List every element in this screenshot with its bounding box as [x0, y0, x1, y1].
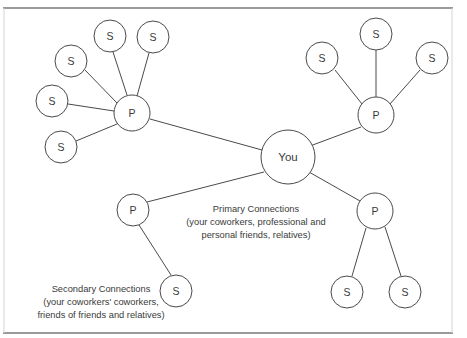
node-s-r3[interactable]: S: [416, 42, 448, 74]
node-s-r2-label: S: [372, 28, 379, 40]
network-diagram-canvas: You P P P P S S S: [0, 0, 467, 338]
node-s-l3-label: S: [67, 55, 74, 67]
node-s-l2-label: S: [149, 31, 156, 43]
edge-p-top-right-to-s-r1: [335, 70, 362, 104]
node-s-l2[interactable]: S: [137, 21, 169, 53]
node-p-top-right-label: P: [372, 109, 379, 121]
node-s-l1-label: S: [106, 30, 113, 42]
node-s-l5[interactable]: S: [45, 131, 77, 163]
node-s-b2[interactable]: S: [389, 276, 421, 308]
node-p-left-label: P: [128, 107, 135, 119]
primary-caption-line-2: (your coworkers, professional and: [172, 216, 340, 229]
edge-p-top-right-to-s-r3: [390, 70, 420, 104]
secondary-caption-line-3: friends of friends and relatives): [12, 309, 190, 322]
node-s-r2[interactable]: S: [360, 18, 392, 50]
secondary-edges-top-right: [335, 50, 420, 104]
secondary-connections-caption: Secondary Connections (your coworkers' c…: [12, 283, 190, 323]
node-s-l1[interactable]: S: [94, 20, 126, 52]
primary-caption-line-3: personal friends, relatives): [172, 229, 340, 242]
edge-you-to-p-top-right: [310, 127, 361, 146]
node-p-top-right[interactable]: P: [358, 97, 394, 133]
node-p-bottom-right[interactable]: P: [357, 193, 393, 229]
node-p-left[interactable]: P: [114, 95, 150, 131]
node-p-bottom-right-label: P: [371, 205, 378, 217]
node-s-l5-label: S: [57, 141, 64, 153]
secondary-caption-line-2: (your coworkers' coworkers,: [12, 296, 190, 309]
node-s-l4-label: S: [48, 95, 55, 107]
node-s-r1[interactable]: S: [306, 42, 338, 74]
edge-p-left-to-s-l2: [137, 53, 149, 96]
secondary-edges-bottom-left: [139, 225, 171, 275]
edge-you-to-p-bottom-left: [147, 172, 264, 202]
node-s-b2-label: S: [401, 286, 408, 298]
node-s-r1-label: S: [318, 52, 325, 64]
node-s-r3-label: S: [428, 52, 435, 64]
node-s-b1-label: S: [343, 286, 350, 298]
node-p-bottom-left[interactable]: P: [117, 194, 149, 226]
node-you[interactable]: You: [261, 130, 315, 184]
secondary-caption-line-1: Secondary Connections: [12, 283, 190, 296]
edge-p-bottom-right-to-s-b1: [352, 228, 366, 276]
edge-p-bottom-right-to-s-b2: [385, 227, 401, 276]
edge-you-to-p-bottom-right: [309, 172, 360, 201]
edge-p-left-to-s-l3: [85, 70, 117, 103]
primary-edges: [147, 119, 361, 202]
edge-p-left-to-s-l5: [76, 124, 117, 141]
edge-p-left-to-s-l4: [68, 104, 114, 111]
node-s-b1[interactable]: S: [331, 276, 363, 308]
primary-caption-line-1: Primary Connections: [172, 203, 340, 216]
node-you-label: You: [278, 151, 297, 163]
primary-connections-caption: Primary Connections (your coworkers, pro…: [172, 203, 340, 243]
node-s-l3[interactable]: S: [55, 45, 87, 77]
edge-p-bottom-left-to-s-bl1: [139, 225, 171, 275]
node-s-l4[interactable]: S: [36, 85, 68, 117]
secondary-edges-bottom-right: [352, 227, 401, 276]
edge-you-to-p-left: [150, 119, 262, 150]
node-p-bottom-left-label: P: [129, 204, 136, 216]
edge-p-left-to-s-l1: [113, 52, 127, 95]
